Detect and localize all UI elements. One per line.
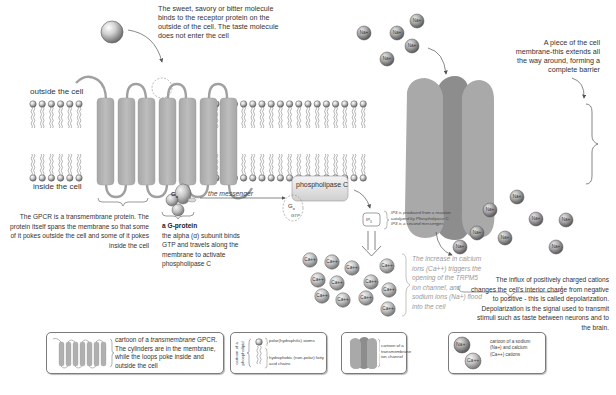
messenger-label: the messenger [208,189,253,198]
phospholipase-label: phospholipase C [296,180,348,189]
legend-ion-channel-text: cartoon of a transmembrane ion channel [381,343,407,360]
g-protein-desc: the alpha (α) subunit binds GTP and trav… [162,232,240,268]
taste-molecule-note: The sweet, savory or bitter molecule bin… [158,4,288,40]
ion-label: Na+ [483,206,497,214]
ion-label: Na+ [390,29,404,37]
inside-cell-label: inside the cell [33,182,81,191]
ion-label: Na+ [549,243,563,251]
taste-molecule [101,21,123,43]
ion-label: Na+ [380,55,394,63]
ion-label: Ca++ [345,264,359,272]
ion-label: Ca++ [330,279,344,287]
gpcr-receptor [76,77,252,199]
ion-label: Na+ [357,29,371,37]
na-entry-arrow [428,48,446,74]
membrane-piece-arrow [572,78,584,98]
ion-label: Na+ [410,17,424,25]
legend-nonpolar-text: hydrophobic (non-polar) fatty acid chain… [269,355,325,366]
legend-phospholipid-side-label: cartoon of a phospholipid [234,338,245,370]
g-protein-title: a G-protein [162,222,197,229]
ion-label: Ca++ [380,262,394,270]
legend-gpcr-text: cartoon of a transmembrane GPCR. The cyl… [115,336,221,370]
ion-label: Na+ [453,243,467,251]
cation-icons [451,334,491,372]
membrane-brace [586,104,598,184]
gpcr-cartoon-icon [51,335,117,371]
legend-cations-text: cartoon of a sodium (Na+) and calcium (C… [490,339,540,358]
gpcr-note: The GPCR is a transmembrane protein. The… [4,212,149,250]
ion-label: Na+ [470,229,484,237]
ion-label: Na+ [498,234,512,242]
ion-label: Na+ [529,215,543,223]
ion-label: Ca++ [303,256,317,264]
membrane-piece-note: A piece of the cell membrane-this extend… [512,38,600,74]
gtp-label: GTP [291,213,300,219]
legend-cations: Na+ Ca++ cartoon of a sodium (Na+) and c… [448,332,546,374]
ion-label: Ca++ [359,294,373,302]
g-protein-note: a G-protein the alpha (α) subunit binds … [162,221,252,269]
outside-cell-label: outside the cell [30,87,83,96]
ion-label: Ca++ [381,305,395,313]
g-alpha-label: Gα [171,190,178,202]
ion-label: Ca++ [315,292,329,300]
ion-label: Ca++ [364,278,378,286]
ion-label: Na+ [405,42,419,50]
legend-ca-label: Ca++ [467,358,479,364]
ip3-note: IP3 is produced from a reaction catalyze… [391,210,451,227]
ion-label: Ca++ [336,296,350,304]
membrane-left [30,101,82,181]
plc-to-ip3-arrow [354,190,370,208]
ip3-label: IP3 [366,217,372,225]
legend-na-label: Na+ [456,342,465,348]
depolarization-note: The influx of positively charged cations… [470,275,609,333]
ip3-to-calcium-arrow [362,231,381,256]
legend-polar-text: polar(hydrophilic) atoms [269,338,325,344]
legend-phospholipid: cartoon of a phospholipid polar(hydrophi… [230,332,327,374]
ion-label: Na+ [559,216,573,224]
ion-label: Ca++ [382,286,396,294]
ion-label: Ca++ [325,258,339,266]
legend-gpcr: cartoon of a transmembrane GPCR. The cyl… [46,332,224,374]
legend-ion-channel: cartoon of a transmembrane ion channel [341,332,407,374]
taste-molecule-arrow [128,30,162,62]
ion-label: Ca++ [311,276,325,284]
ion-label: Na+ [510,193,524,201]
ion-channel-icon [344,335,380,371]
